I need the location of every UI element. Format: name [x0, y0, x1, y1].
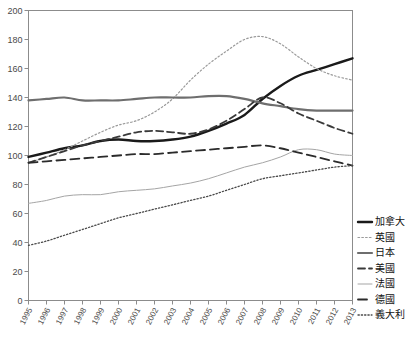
y-tick-label: 160 [7, 64, 22, 74]
series-line-5 [29, 145, 353, 165]
x-tick-label: 2002 [144, 306, 161, 326]
line-chart: 020406080100120140160180200 199519961997… [0, 0, 419, 341]
legend-label-5: 德國 [375, 293, 395, 305]
x-tick-label: 1996 [36, 306, 53, 326]
series-lines [29, 36, 353, 245]
x-tick-label: 2006 [216, 306, 233, 326]
x-tick-label: 2004 [180, 306, 197, 326]
legend-label-6: 義大利 [375, 308, 405, 320]
x-tick-label: 2007 [234, 306, 251, 326]
plot-frame [29, 11, 353, 301]
x-tick-label: 2001 [126, 306, 143, 326]
y-tick-label: 100 [7, 151, 22, 161]
x-tick-label: 1995 [18, 306, 35, 326]
x-tick-label: 2010 [288, 306, 305, 326]
x-tick-label: 2013 [342, 306, 359, 326]
chart-legend: 加拿大英國日本美國法國德國義大利 [358, 215, 405, 320]
y-axis: 020406080100120140160180200 [7, 6, 28, 306]
x-tick-label: 2000 [108, 306, 125, 326]
y-tick-label: 20 [12, 267, 22, 277]
x-axis: 1995199619971998199920002001200220032004… [18, 301, 359, 327]
legend-label-3: 美國 [375, 262, 395, 274]
x-tick-label: 2005 [198, 306, 215, 326]
legend-label-1: 英國 [375, 231, 395, 243]
y-tick-label: 80 [12, 180, 22, 190]
series-line-6 [29, 166, 353, 246]
y-tick-label: 60 [12, 209, 22, 219]
series-line-3 [29, 97, 353, 162]
y-tick-label: 140 [7, 93, 22, 103]
x-tick-label: 1999 [90, 306, 107, 326]
x-tick-label: 2009 [270, 306, 287, 326]
chart-svg: 020406080100120140160180200 199519961997… [0, 0, 419, 341]
x-tick-label: 1998 [72, 306, 89, 326]
series-line-0 [29, 58, 353, 157]
y-tick-label: 40 [12, 238, 22, 248]
x-tick-label: 1997 [54, 306, 71, 326]
x-tick-label: 2011 [306, 306, 322, 326]
y-tick-label: 180 [7, 35, 22, 45]
x-tick-label: 2008 [252, 306, 269, 326]
y-tick-label: 120 [7, 122, 22, 132]
series-line-2 [29, 96, 353, 111]
y-tick-label: 0 [17, 296, 22, 306]
legend-label-2: 日本 [375, 246, 395, 258]
x-tick-label: 2003 [162, 306, 179, 326]
x-tick-label: 2012 [324, 306, 341, 326]
legend-label-4: 法國 [375, 277, 395, 289]
y-tick-label: 200 [7, 6, 22, 16]
legend-label-0: 加拿大 [375, 215, 405, 227]
series-line-4 [29, 149, 353, 203]
